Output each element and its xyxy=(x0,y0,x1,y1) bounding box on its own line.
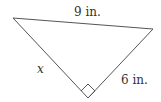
triangle-diagram: 9 in. x 6 in. xyxy=(0,0,161,102)
hypotenuse-label: 9 in. xyxy=(74,5,101,19)
right-leg-label: 6 in. xyxy=(121,73,148,87)
right-angle-marker xyxy=(81,84,95,98)
left-leg-label: x xyxy=(37,62,44,76)
